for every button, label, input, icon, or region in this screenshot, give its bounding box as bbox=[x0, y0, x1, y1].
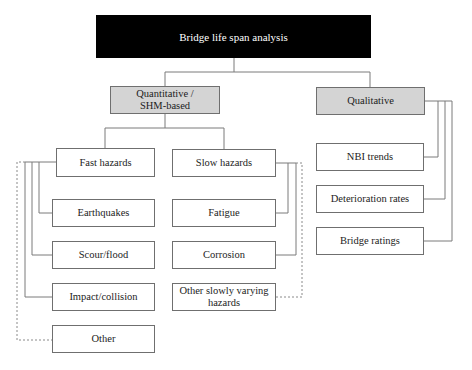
impact-collision-label: Impact/collision bbox=[69, 291, 137, 303]
corrosion-label: Corrosion bbox=[203, 249, 245, 261]
category-qualitative: Qualitative bbox=[316, 87, 425, 115]
leaf-bridge-ratings: Bridge ratings bbox=[316, 227, 424, 255]
other-slow-label-line2: hazards bbox=[208, 297, 240, 309]
leaf-impact-collision: Impact/collision bbox=[52, 283, 155, 311]
root-node-bridge-life-span-analysis: Bridge life span analysis bbox=[96, 15, 371, 58]
root-label: Bridge life span analysis bbox=[179, 31, 287, 43]
qualitative-label: Qualitative bbox=[347, 95, 394, 107]
leaf-other-slowly-varying-hazards: Other slowly varying hazards bbox=[172, 283, 276, 311]
other-slow-label-line1: Other slowly varying bbox=[179, 285, 268, 297]
leaf-scour-flood: Scour/flood bbox=[52, 241, 155, 269]
diagram-canvas: Bridge life span analysis Quantitative /… bbox=[0, 0, 472, 370]
group-fast-hazards: Fast hazards bbox=[56, 148, 155, 177]
leaf-nbi-trends: NBI trends bbox=[316, 143, 424, 171]
quantitative-label-line1: Quantitative / bbox=[136, 88, 193, 100]
earthquakes-label: Earthquakes bbox=[78, 207, 130, 219]
nbi-trends-label: NBI trends bbox=[347, 151, 393, 163]
leaf-other-fast: Other bbox=[52, 325, 155, 353]
bridge-ratings-label: Bridge ratings bbox=[340, 235, 400, 247]
leaf-corrosion: Corrosion bbox=[172, 241, 276, 269]
leaf-fatigue: Fatigue bbox=[172, 199, 276, 227]
group-slow-hazards: Slow hazards bbox=[172, 149, 276, 177]
leaf-deterioration-rates: Deterioration rates bbox=[316, 185, 424, 213]
deterioration-rates-label: Deterioration rates bbox=[331, 193, 409, 205]
fatigue-label: Fatigue bbox=[208, 207, 240, 219]
quantitative-label-line2: SHM-based bbox=[140, 100, 190, 112]
leaf-earthquakes: Earthquakes bbox=[52, 199, 155, 227]
category-quantitative-shm: Quantitative / SHM-based bbox=[110, 86, 220, 114]
scour-flood-label: Scour/flood bbox=[79, 249, 129, 261]
fast-hazards-label: Fast hazards bbox=[79, 157, 131, 169]
other-fast-label: Other bbox=[92, 333, 116, 345]
slow-hazards-label: Slow hazards bbox=[196, 157, 252, 169]
